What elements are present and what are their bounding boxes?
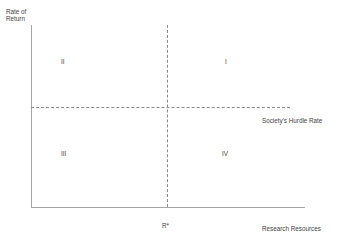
r-star-line — [167, 25, 168, 207]
quadrant-label-iii: III — [61, 150, 66, 157]
x-axis-label: Research Resources — [262, 225, 321, 232]
societys-hurdle-rate-label: Society's Hurdle Rate — [262, 117, 322, 124]
y-axis-label: Rate of Return — [6, 8, 26, 23]
quadrant-label-i: I — [225, 58, 227, 65]
societys-hurdle-rate-line — [31, 107, 290, 108]
x-axis-line — [31, 207, 305, 208]
y-axis-line — [31, 25, 32, 208]
quadrant-label-iv: IV — [222, 150, 228, 157]
quadrant-label-ii: II — [61, 58, 65, 65]
r-star-tick-label: R* — [162, 222, 169, 229]
quadrant-diagram: Rate of Return Research Resources Societ… — [0, 0, 349, 242]
